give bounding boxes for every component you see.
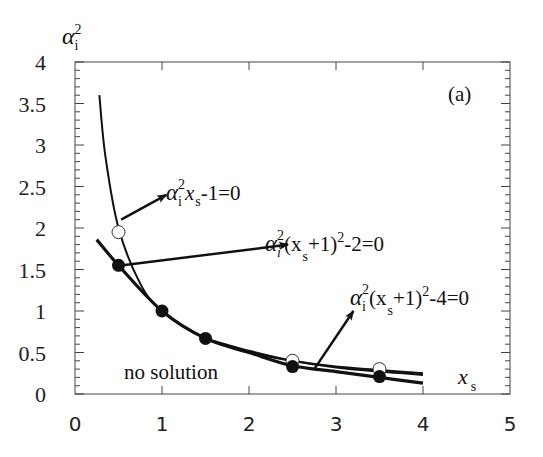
y-tick-label: 2 xyxy=(35,216,46,241)
y-tick-label: 2.5 xyxy=(19,175,47,200)
x-tick-label: 2 xyxy=(243,412,256,436)
y-tick-label: 1 xyxy=(35,299,46,324)
filled-circle-marker xyxy=(199,332,212,345)
x-tick-label: 4 xyxy=(417,412,430,436)
panel-label: (a) xyxy=(448,82,471,106)
plot-frame xyxy=(75,62,510,394)
y-tick-label: 0.5 xyxy=(19,341,47,366)
open-circle-marker xyxy=(112,226,125,239)
x-tick-label: 0 xyxy=(69,412,82,436)
x-tick-label: 5 xyxy=(504,412,517,436)
y-tick-label: 3 xyxy=(35,133,46,158)
y-tick-label: 4 xyxy=(35,50,46,75)
axis-ticks xyxy=(75,62,510,394)
filled-circle-marker xyxy=(286,360,299,373)
y-tick-label: 3.5 xyxy=(19,92,47,117)
y-tick-label: 1.5 xyxy=(19,258,47,283)
x-axis-label: xs xyxy=(457,364,476,394)
no-solution-label: no solution xyxy=(124,360,218,384)
y-axis-label: αi2 xyxy=(62,22,82,53)
equation-3-label: αi2(xs+1)2-4=0 xyxy=(350,282,469,318)
filled-circle-marker xyxy=(373,370,386,383)
annotation-arrows xyxy=(121,195,353,369)
filled-circle-marker xyxy=(156,305,169,318)
equation-1-label: αi2xs-1=0 xyxy=(166,177,241,209)
x-tick-label: 3 xyxy=(330,412,343,436)
x-axis-tick-labels: 012345 xyxy=(69,412,517,436)
y-tick-label: 0 xyxy=(35,382,46,407)
annotation-arrow xyxy=(123,245,288,266)
annotation-arrow xyxy=(314,311,353,369)
chart: 012345 00.511.522.533.54 αi2 xs (a) no s… xyxy=(0,0,543,457)
y-axis-tick-labels: 00.511.522.533.54 xyxy=(19,50,47,407)
annotation-arrow xyxy=(121,195,166,220)
x-tick-label: 1 xyxy=(156,412,169,436)
